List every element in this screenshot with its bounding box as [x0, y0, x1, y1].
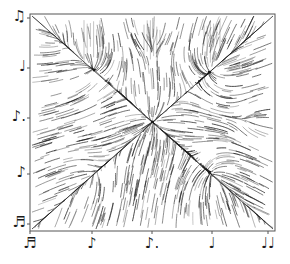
streamline [153, 106, 155, 117]
streamline [105, 121, 125, 128]
streamline [48, 165, 66, 171]
streamline [258, 87, 269, 90]
streamline [131, 18, 133, 27]
streamline [70, 211, 76, 226]
streamline [203, 202, 204, 220]
streamline [88, 83, 98, 91]
streamline [211, 17, 220, 39]
streamline [222, 20, 232, 42]
streamline [218, 155, 231, 157]
streamline [32, 80, 51, 83]
streamline [229, 183, 240, 189]
streamline [216, 201, 219, 217]
streamline [78, 135, 87, 138]
streamline [102, 187, 104, 201]
streamline [148, 64, 149, 74]
streamline [182, 72, 187, 84]
streamline [172, 108, 183, 109]
streamline [244, 193, 264, 204]
streamline [206, 138, 219, 139]
streamline [167, 31, 172, 45]
x-tick-label-tied-notes-icon: ♩♩ [261, 236, 275, 251]
streamline [166, 73, 167, 87]
streamline [130, 188, 133, 205]
streamline [59, 125, 73, 129]
streamline [44, 111, 59, 115]
streamline [240, 168, 256, 175]
streamline [117, 199, 122, 223]
streamline [179, 103, 201, 107]
streamline [253, 59, 266, 64]
streamline [252, 93, 263, 96]
streamline [225, 85, 243, 86]
streamline [97, 90, 115, 101]
streamline [207, 83, 219, 93]
streamline [147, 91, 149, 112]
streamline [192, 105, 210, 111]
streamline [257, 35, 266, 38]
streamline [143, 72, 145, 94]
streamline [259, 183, 269, 188]
x-tick-label-quarter-note-icon: ♩ [208, 236, 215, 251]
streamline [215, 138, 234, 142]
streamline [208, 27, 211, 36]
streamline [233, 153, 253, 160]
flow-field-plot [0, 0, 290, 264]
streamline [214, 84, 233, 90]
streamline [162, 116, 184, 118]
streamline [146, 56, 148, 65]
streamline [131, 78, 132, 94]
streamline [101, 135, 122, 142]
streamline [192, 141, 213, 142]
streamline [46, 150, 57, 153]
streamline [221, 216, 224, 225]
streamline [123, 61, 124, 72]
streamline [221, 163, 242, 166]
streamline [101, 97, 112, 103]
streamline [63, 158, 72, 160]
streamline [139, 84, 140, 94]
streamline [131, 35, 141, 57]
streamline [250, 122, 273, 128]
streamline [93, 182, 97, 204]
streamline [113, 181, 114, 192]
streamline [260, 176, 273, 183]
streamline [200, 115, 222, 121]
streamline [216, 103, 230, 106]
streamline [192, 17, 198, 39]
streamline [51, 93, 62, 96]
streamline [188, 128, 204, 130]
streamline [110, 106, 127, 111]
streamline [176, 112, 192, 113]
streamline [123, 198, 125, 211]
streamline [133, 199, 137, 221]
streamline [113, 34, 114, 52]
streamline [143, 150, 149, 173]
streamline [168, 122, 186, 123]
streamline [222, 208, 227, 227]
streamline [172, 204, 174, 218]
streamline [169, 78, 170, 97]
streamline [190, 102, 199, 105]
streamline [159, 67, 160, 81]
streamline [206, 21, 211, 35]
streamline [59, 175, 74, 180]
streamline [134, 81, 136, 97]
streamline [69, 209, 77, 228]
streamline [232, 116, 242, 117]
streamline [185, 92, 201, 99]
streamline [250, 158, 268, 166]
streamline [39, 191, 49, 196]
streamline [118, 57, 122, 77]
streamline [217, 195, 222, 215]
streamline [93, 117, 105, 122]
streamline [78, 171, 96, 172]
streamline [148, 134, 153, 156]
streamline [152, 68, 153, 89]
streamline [102, 107, 122, 114]
streamline [35, 178, 56, 187]
streamline [117, 40, 118, 51]
streamline [117, 61, 119, 70]
streamline [236, 74, 249, 77]
streamline [242, 84, 259, 88]
